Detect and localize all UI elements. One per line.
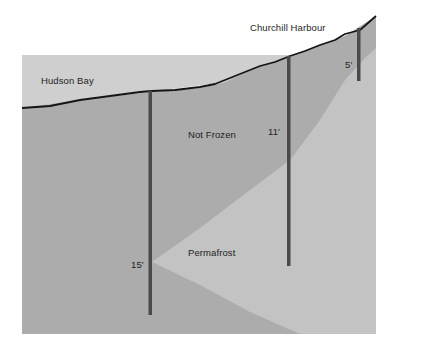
- pole-11ft-depth-label: 11′: [268, 126, 280, 137]
- churchill-harbour-label: Churchill Harbour: [250, 22, 326, 33]
- hudson-bay-label: Hudson Bay: [41, 75, 94, 86]
- pole-15ft: [149, 91, 153, 315]
- not-frozen-label: Not Frozen: [188, 129, 236, 140]
- pole-11ft: [287, 56, 291, 266]
- permafrost-label: Permafrost: [188, 247, 235, 258]
- pole-15ft-depth-label: 15′: [131, 259, 144, 270]
- pole-5ft-depth-label: 5′: [345, 59, 352, 70]
- pole-5ft: [357, 28, 361, 81]
- permafrost-cross-section: [0, 0, 426, 356]
